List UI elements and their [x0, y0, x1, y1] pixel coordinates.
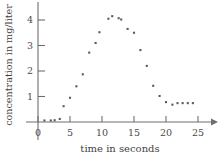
data-point [165, 101, 167, 103]
x-tick-label-20: 20 [160, 127, 172, 138]
data-point [82, 73, 84, 75]
scatter-chart-figure: 0510152025 1234 time in seconds concentr… [0, 0, 220, 161]
x-tick-label-25: 25 [192, 127, 204, 138]
data-point [127, 28, 129, 30]
data-point [146, 65, 148, 67]
data-point [192, 102, 194, 104]
data-point [88, 52, 90, 54]
data-point [59, 118, 61, 120]
data-point [111, 15, 113, 17]
data-point [50, 119, 52, 121]
data-point [63, 105, 65, 107]
data-point [182, 102, 184, 104]
y-tick-label-2: 2 [27, 65, 33, 76]
x-axis-tick-labels: 0510152025 [35, 127, 204, 138]
y-tick-label-1: 1 [27, 91, 33, 102]
data-point [98, 31, 100, 33]
x-tick-label-10: 10 [96, 127, 108, 138]
y-axis-tick-labels: 1234 [27, 14, 33, 102]
data-point [139, 49, 141, 51]
data-point [187, 102, 189, 104]
x-tick-label-0: 0 [35, 127, 41, 138]
data-point [118, 17, 120, 19]
data-point [75, 85, 77, 87]
x-axis-arrow-icon [211, 118, 218, 125]
x-tick-label-15: 15 [128, 127, 140, 138]
data-point [159, 95, 161, 97]
x-axis-ticks [38, 116, 198, 122]
y-axis-title: concentration in mg/liter [3, 4, 14, 126]
x-tick-label-5: 5 [67, 127, 73, 138]
y-tick-label-4: 4 [27, 14, 33, 25]
chart-canvas: 0510152025 1234 time in seconds concentr… [0, 0, 220, 161]
data-point [171, 104, 173, 106]
data-point [69, 97, 71, 99]
data-point [107, 18, 109, 20]
data-point [120, 18, 122, 20]
data-point [95, 42, 97, 44]
data-point [133, 32, 135, 34]
data-point [43, 119, 45, 121]
x-axis-title: time in seconds [80, 143, 159, 154]
data-point [152, 85, 154, 87]
data-points [43, 15, 194, 121]
y-tick-label-3: 3 [27, 40, 33, 51]
y-axis-ticks [38, 20, 45, 97]
data-point [54, 119, 56, 121]
data-point [176, 102, 178, 104]
